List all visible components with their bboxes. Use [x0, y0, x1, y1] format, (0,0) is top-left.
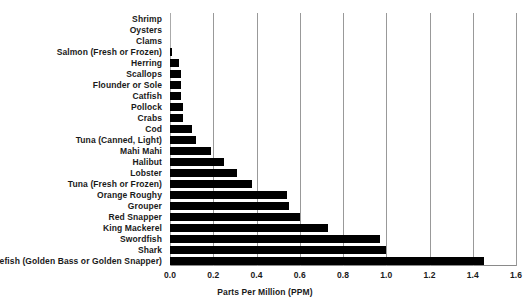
plot-area: [170, 13, 516, 266]
bar-row: [170, 191, 516, 199]
category-label: Grouper: [128, 201, 162, 211]
bar: [170, 202, 289, 210]
category-label: King Mackerel: [103, 223, 162, 233]
category-label: Halibut: [132, 157, 162, 167]
category-axis-labels: ShrimpOystersClamsSalmon (Fresh or Froze…: [0, 13, 166, 266]
category-label: Oysters: [130, 25, 162, 35]
bar: [170, 147, 211, 155]
bar: [170, 92, 181, 100]
category-label: Catfish: [132, 91, 162, 101]
bar-row: [170, 114, 516, 122]
x-tick-label: 0.2: [207, 270, 219, 280]
category-label: Swordfish: [120, 234, 162, 244]
category-label: Pollock: [131, 102, 162, 112]
category-label: Salmon (Fresh or Frozen): [57, 47, 162, 57]
bar-row: [170, 59, 516, 67]
bar: [170, 136, 196, 144]
x-tick-label: 1.4: [467, 270, 479, 280]
bar-row: [170, 92, 516, 100]
top-edge-artifact: [0, 0, 530, 6]
bar-row: [170, 180, 516, 188]
bar: [170, 213, 300, 221]
x-tick-label: 1.6: [510, 270, 522, 280]
bar: [170, 257, 484, 265]
bar-row: [170, 257, 516, 265]
category-label: Herring: [131, 58, 162, 68]
bar: [170, 48, 172, 56]
bar-row: [170, 235, 516, 243]
bar-row: [170, 37, 516, 45]
bar-row: [170, 103, 516, 111]
category-label: Mahi Mahi: [120, 146, 162, 156]
x-tick-label: 1.2: [424, 270, 436, 280]
x-tick-label: 0.6: [294, 270, 306, 280]
bar-row: [170, 147, 516, 155]
bar-row: [170, 48, 516, 56]
bar: [170, 125, 192, 133]
bar: [170, 70, 181, 78]
bar: [170, 103, 183, 111]
mercury-in-fish-bar-chart: ShrimpOystersClamsSalmon (Fresh or Froze…: [0, 0, 530, 302]
gridline-1.6: [516, 13, 517, 266]
bar: [170, 224, 328, 232]
category-label: Tuna (Fresh or Frozen): [68, 179, 162, 189]
bar-row: [170, 224, 516, 232]
category-label: Shrimp: [132, 14, 162, 24]
bar-row: [170, 125, 516, 133]
bar: [170, 114, 183, 122]
x-tick-label: 0.8: [337, 270, 349, 280]
bar-row: [170, 202, 516, 210]
bar-row: [170, 81, 516, 89]
x-tick-label: 1.0: [380, 270, 392, 280]
category-label: Scallops: [126, 69, 162, 79]
category-label: Clams: [136, 36, 162, 46]
bar: [170, 235, 380, 243]
bar: [170, 246, 386, 254]
bar-row: [170, 246, 516, 254]
category-label: Cod: [145, 124, 162, 134]
category-label: Orange Roughy: [97, 190, 162, 200]
category-label: Lobster: [130, 168, 162, 178]
bar-row: [170, 213, 516, 221]
bar: [170, 169, 237, 177]
bar-row: [170, 15, 516, 23]
category-label: Tilefish (Golden Bass or Golden Snapper): [0, 256, 162, 266]
x-tick-label: 0.4: [251, 270, 263, 280]
category-label: Tuna (Canned, Light): [76, 135, 162, 145]
x-tick-label: 0.0: [164, 270, 176, 280]
category-label: Flounder or Sole: [93, 80, 162, 90]
category-label: Red Snapper: [108, 212, 162, 222]
x-axis-title: Parts Per Million (PPM): [0, 287, 530, 297]
bar-row: [170, 158, 516, 166]
bar-row: [170, 136, 516, 144]
bar: [170, 191, 287, 199]
bar: [170, 59, 179, 67]
bar-row: [170, 26, 516, 34]
bar-row: [170, 169, 516, 177]
category-label: Shark: [138, 245, 162, 255]
bar-row: [170, 70, 516, 78]
category-label: Crabs: [137, 113, 162, 123]
bar: [170, 180, 252, 188]
bar: [170, 81, 181, 89]
bar: [170, 158, 224, 166]
